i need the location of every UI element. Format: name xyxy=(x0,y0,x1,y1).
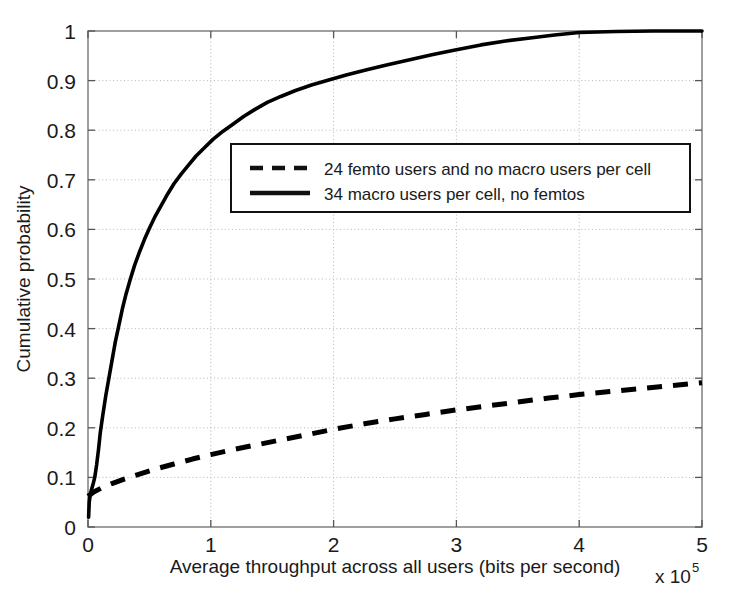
y-tick-label-1: 0.1 xyxy=(47,466,76,489)
x-tick-label-4: 4 xyxy=(573,533,585,556)
cdf-line-chart: 012345 00.10.20.30.40.50.60.70.80.91 Ave… xyxy=(0,0,730,607)
y-tick-label-0: 0 xyxy=(64,516,76,539)
legend-label-0: 24 femto users and no macro users per ce… xyxy=(324,160,651,179)
chart-figure: 012345 00.10.20.30.40.50.60.70.80.91 Ave… xyxy=(0,0,730,607)
x-axis-exponent-base: x 10 xyxy=(655,566,691,587)
x-axis-title: Average throughput across all users (bit… xyxy=(170,556,621,577)
y-tick-label-4: 0.4 xyxy=(47,318,77,341)
legend-label-1: 34 macro users per cell, no femtos xyxy=(324,185,585,204)
y-axis-title: Cumulative probability xyxy=(13,185,34,372)
y-tick-label-8: 0.8 xyxy=(47,119,76,142)
x-tick-label-5: 5 xyxy=(696,533,708,556)
y-tick-label-3: 0.3 xyxy=(47,367,76,390)
x-tick-label-2: 2 xyxy=(328,533,340,556)
x-tick-label-1: 1 xyxy=(205,533,217,556)
legend: 24 femto users and no macro users per ce… xyxy=(231,144,690,212)
chart-background xyxy=(0,0,730,607)
x-tick-label-3: 3 xyxy=(451,533,463,556)
x-axis-exponent-power: 5 xyxy=(692,560,699,575)
y-tick-label-7: 0.7 xyxy=(47,169,76,192)
y-tick-label-10: 1 xyxy=(64,20,76,43)
x-tick-label-0: 0 xyxy=(82,533,94,556)
y-tick-label-6: 0.6 xyxy=(47,218,76,241)
y-tick-label-9: 0.9 xyxy=(47,70,76,93)
y-tick-label-2: 0.2 xyxy=(47,417,76,440)
y-tick-label-5: 0.5 xyxy=(47,268,76,291)
